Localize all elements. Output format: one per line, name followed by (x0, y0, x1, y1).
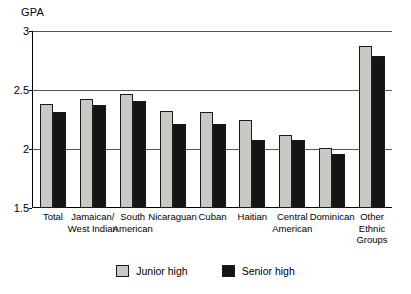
bar-senior-high (213, 124, 226, 208)
bar-junior-high (319, 148, 332, 208)
bar-senior-high (252, 140, 265, 208)
bar-junior-high (80, 99, 93, 208)
bar-group (239, 31, 265, 208)
y-tick-mark (29, 208, 32, 209)
legend-label-senior-high: Senior high (242, 265, 295, 277)
bar-group (279, 31, 305, 208)
bar-junior-high (160, 111, 173, 208)
chart-legend: Junior high Senior high (0, 265, 411, 277)
bar-senior-high (93, 105, 106, 208)
bar-senior-high (332, 154, 345, 208)
bar-group (40, 31, 66, 208)
bar-senior-high (173, 124, 186, 208)
bar-senior-high (133, 101, 146, 208)
bar-senior-high (53, 112, 66, 208)
bar-group (80, 31, 106, 208)
bar-junior-high (40, 104, 53, 208)
bar-junior-high (279, 135, 292, 208)
gpa-bar-chart: GPA 1.522.53 TotalJamaican/ West IndianS… (0, 0, 411, 294)
legend-item-junior-high: Junior high (116, 265, 187, 277)
bar-group (319, 31, 345, 208)
x-tick-label: Other Ethnic Groups (341, 211, 403, 246)
legend-swatch-senior-high-icon (222, 265, 235, 277)
bar-junior-high (239, 120, 252, 209)
bar-junior-high (200, 112, 213, 208)
legend-label-junior-high: Junior high (136, 265, 187, 277)
y-tick-label: 2.5 (14, 84, 29, 96)
y-axis-title: GPA (21, 6, 44, 18)
bar-group (120, 31, 146, 208)
bars-layer (33, 31, 392, 208)
legend-item-senior-high: Senior high (222, 265, 295, 277)
x-axis-category-labels: TotalJamaican/ West IndianSouth American… (33, 211, 392, 263)
bar-group (359, 31, 385, 208)
bar-junior-high (359, 46, 372, 208)
bar-senior-high (372, 56, 385, 208)
legend-swatch-junior-high-icon (116, 265, 129, 277)
bar-junior-high (120, 94, 133, 208)
bar-group (160, 31, 186, 208)
bar-senior-high (292, 140, 305, 208)
bar-group (200, 31, 226, 208)
y-axis-tick-labels: 1.522.53 (0, 31, 29, 208)
